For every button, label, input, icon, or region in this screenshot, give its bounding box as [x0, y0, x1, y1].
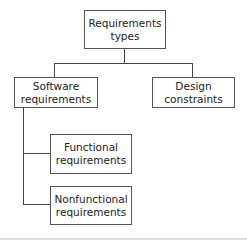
node-label: types: [111, 30, 140, 42]
node-label: requirements: [56, 206, 126, 218]
connector-to-software: [54, 63, 55, 77]
node-label: Requirements: [89, 17, 162, 29]
node-label: Functional: [64, 141, 118, 153]
node-functional-requirements: Functionalrequirements: [50, 134, 132, 174]
node-label: requirements: [56, 154, 126, 166]
node-design-constraints: Designconstraints: [152, 77, 235, 108]
node-label: constraints: [164, 93, 222, 105]
node-nonfunctional-requirements: Nonfunctionalrequirements: [50, 186, 132, 225]
node-label: Nonfunctional: [54, 193, 127, 205]
connector-root-down: [124, 49, 125, 63]
node-requirements-types: Requirementstypes: [84, 10, 166, 49]
node-label: Software: [33, 80, 79, 92]
node-label: requirements: [21, 93, 91, 105]
node-software-requirements: Softwarerequirements: [14, 77, 98, 108]
connector-horizontal: [54, 63, 193, 64]
connector-to-functional: [23, 153, 50, 154]
connector-to-design: [192, 63, 193, 77]
connector-to-nonfunctional: [23, 204, 50, 205]
node-label: Design: [175, 80, 211, 92]
connector-software-spine: [23, 108, 24, 205]
